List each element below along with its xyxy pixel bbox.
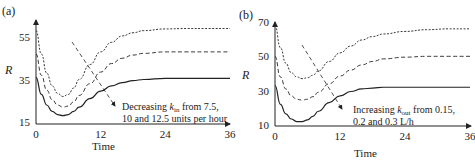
y-tick-label: 15 (19, 116, 31, 128)
x-tick-label: 24 (160, 128, 172, 140)
panel-b-y-tick-labels: 10305070 (258, 16, 270, 131)
panel-b-x-tick-labels: 0122436 (272, 130, 475, 142)
series-line-dotted (275, 25, 470, 78)
y-tick-label: 30 (258, 85, 270, 97)
panel-b-y-label: R (241, 68, 250, 82)
panel-b: (b) 10305070 0122436 R Time Increasing k… (239, 8, 475, 159)
panel-a-label: (a) (2, 4, 15, 18)
y-tick-label: 35 (19, 74, 31, 86)
panel-a: (a) 153555 0122436 R Time Decreasing kin… (2, 4, 236, 152)
x-tick-label: 36 (465, 130, 475, 142)
x-tick-label: 12 (335, 130, 346, 142)
y-tick-label: 50 (258, 50, 270, 62)
series-line-dashed (36, 52, 230, 107)
x-tick-label: 36 (225, 128, 237, 140)
panel-a-x-label: Time (92, 140, 115, 152)
x-tick-label: 12 (95, 128, 106, 140)
panel-a-annotation-line2: 10 and 12.5 units per hour (122, 113, 228, 124)
chart-figure: (a) 153555 0122436 R Time Decreasing kin… (0, 0, 475, 162)
x-tick-label: 0 (33, 128, 39, 140)
series-line-dotted (36, 29, 230, 97)
series-line-dashed (275, 56, 470, 100)
x-tick-label: 0 (272, 130, 278, 142)
panel-a-x-tick-labels: 0122436 (33, 128, 236, 140)
panel-a-y-label: R (4, 63, 13, 77)
panel-a-y-tick-labels: 153555 (19, 31, 31, 128)
y-tick-label: 55 (19, 31, 31, 43)
panel-b-label: (b) (239, 8, 253, 22)
panel-b-x-label: Time (354, 147, 377, 159)
panel-b-annotation-line2: 0.2 and 0.3 L/h (353, 116, 414, 127)
y-tick-label: 70 (258, 16, 270, 28)
y-tick-label: 10 (258, 119, 270, 131)
x-tick-label: 24 (400, 130, 412, 142)
